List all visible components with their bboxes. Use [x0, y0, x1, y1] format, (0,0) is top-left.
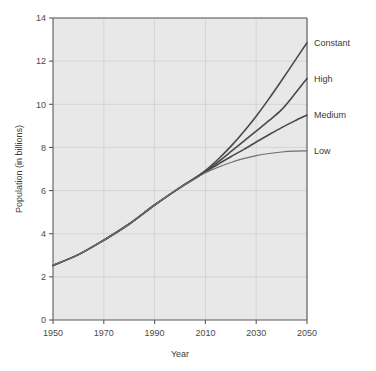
y-tick-label: 6 [41, 186, 46, 196]
x-tick-label: 2010 [195, 328, 215, 338]
x-tick-label: 1970 [94, 328, 114, 338]
x-tick-label: 1950 [43, 328, 63, 338]
series-label-low: Low [314, 146, 331, 156]
series-label-high: High [314, 74, 333, 84]
y-tick-label: 12 [36, 56, 46, 66]
x-axis-title: Year [171, 349, 189, 359]
y-tick-label: 2 [41, 272, 46, 282]
population-projection-chart: 02468101214 195019701990201020302050 Con… [0, 0, 376, 371]
plot-area [53, 18, 307, 320]
chart-canvas: 02468101214 195019701990201020302050 Con… [0, 0, 376, 371]
y-tick-label: 10 [36, 100, 46, 110]
y-tick-label: 0 [41, 315, 46, 325]
y-tick-label: 14 [36, 13, 46, 23]
series-label-constant: Constant [314, 38, 351, 48]
y-axis-title: Population (in billions) [14, 125, 24, 213]
x-tick-label: 2050 [297, 328, 317, 338]
y-tick-label: 4 [41, 229, 46, 239]
series-label-medium: Medium [314, 110, 346, 120]
x-tick-label: 2030 [246, 328, 266, 338]
x-tick-label: 1990 [145, 328, 165, 338]
y-tick-label: 8 [41, 143, 46, 153]
